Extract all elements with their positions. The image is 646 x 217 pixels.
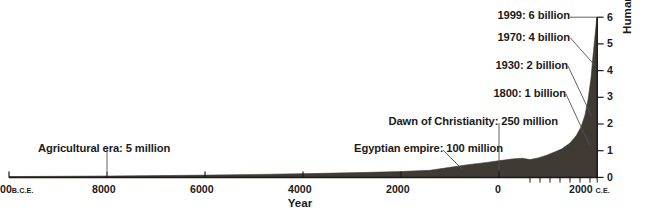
x-axis-minor-ticks: [530, 177, 597, 182]
annotation-pop-1999: 1999: 6 billion: [498, 9, 571, 21]
x-tick-label-6000: 6000: [190, 183, 214, 195]
x-tick-label-0: 0: [495, 183, 501, 195]
leader-line-pop-1970: [570, 38, 595, 66]
y-tick-label-6: 6: [607, 11, 613, 23]
y-tick-label-1: 1: [607, 144, 613, 156]
y-axis-ticks: [597, 17, 603, 177]
population-growth-chart: 1999: 6 billion 1970: 4 billion 1930: 2 …: [0, 0, 646, 217]
annotation-pop-1970: 1970: 4 billion: [498, 31, 571, 43]
x-axis-title: Year: [0, 196, 600, 209]
y-tick-label-0: 0: [607, 171, 613, 183]
x-tick-label-4000: 4000: [288, 183, 312, 195]
y-axis-title: Human populations (billions): [616, 0, 638, 44]
annotation-pop-1800: 1800: 1 billion: [494, 87, 567, 99]
y-tick-label-2: 2: [607, 117, 613, 129]
x-tick-label-8000: 8000: [92, 183, 116, 195]
y-tick-label-5: 5: [607, 37, 613, 49]
annotation-pop-christianity: Dawn of Christianity: 250 million: [388, 115, 558, 127]
annotation-pop-egyptian-empire: Egyptian empire: 100 million: [354, 142, 503, 154]
annotation-pop-agricultural-era: Agricultural era: 5 million: [38, 142, 170, 154]
leader-line-pop-1930: [568, 66, 592, 117]
y-tick-label-3: 3: [607, 90, 613, 102]
x-tick-label-2000-ce: 2000 C.E.: [569, 183, 610, 195]
x-tick-label-2000: 2000: [386, 183, 410, 195]
y-tick-label-4: 4: [607, 64, 613, 76]
annotation-pop-1930: 1930: 2 billion: [496, 59, 569, 71]
x-tick-label-10000-bce: 00B.C.E.: [0, 183, 34, 195]
